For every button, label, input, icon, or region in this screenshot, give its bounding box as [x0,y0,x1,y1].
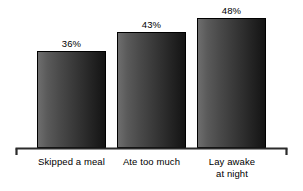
cropped-caption-sliver [0,188,303,191]
bar-ate-too-much[interactable] [117,32,186,148]
bar-skipped-a-meal[interactable] [37,51,106,148]
bar-value-label-lay-awake-at-night: 48% [222,5,241,16]
category-label-lay-awake-at-night: Lay awake at night [186,156,278,179]
bar-group-lay-awake-at-night: 48% [197,0,266,148]
bar-chart: 36% 43% 48% Skipped a meal Ate too much [0,0,303,191]
x-axis-line [0,142,303,156]
plot-area: 36% 43% 48% [0,0,303,148]
category-label-ate-too-much: Ate too much [104,156,199,168]
bar-value-label-skipped-a-meal: 36% [62,38,81,49]
category-label-line-2: at night [186,168,278,180]
bar-group-skipped-a-meal: 36% [37,0,106,148]
bar-lay-awake-at-night[interactable] [197,18,266,148]
bar-value-label-ate-too-much: 43% [142,19,161,30]
bar-group-ate-too-much: 43% [117,0,186,148]
category-label-line-1: Skipped a meal [38,156,105,167]
category-label-line-1: Lay awake [209,156,255,167]
x-axis [0,142,303,156]
category-label-line-1: Ate too much [123,156,180,167]
x-axis-category-labels: Skipped a meal Ate too much Lay awake at… [0,156,303,191]
